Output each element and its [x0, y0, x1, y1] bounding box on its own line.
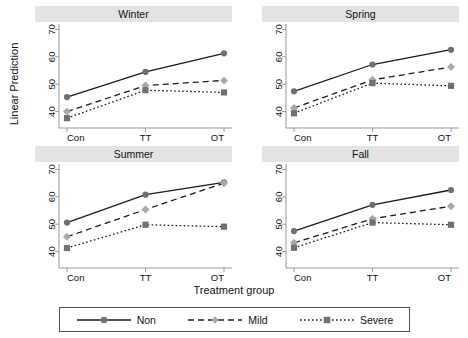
data-point-severe: [142, 87, 148, 93]
legend-swatch-non: [76, 314, 132, 326]
data-point-non: [448, 187, 454, 193]
y-tick-label: 40: [46, 246, 57, 257]
x-tick-label: OT: [211, 272, 224, 282]
x-tick-label: TT: [140, 132, 152, 142]
panel-title-winter: Winter: [35, 6, 232, 22]
data-point-severe: [291, 110, 297, 116]
x-tick-label: OT: [211, 132, 224, 142]
x-tick-label: Con: [294, 272, 311, 282]
plot-area-winter: 40506070ConTTOT: [35, 24, 232, 142]
data-point-severe: [369, 219, 375, 225]
data-point-mild: [63, 233, 71, 241]
y-tick-label: 70: [273, 24, 284, 35]
y-tick-label: 60: [46, 52, 57, 63]
data-point-mild: [220, 179, 228, 187]
data-point-severe: [64, 245, 70, 251]
data-point-non: [221, 50, 227, 56]
y-tick-label: 70: [273, 164, 284, 175]
data-point-mild: [220, 76, 228, 84]
y-tick-label: 50: [46, 79, 57, 90]
panel-title-summer: Summer: [35, 146, 232, 162]
panel-plot-svg: 40506070ConTTOT: [262, 24, 459, 142]
data-point-non: [64, 94, 70, 100]
data-point-non: [369, 61, 375, 67]
legend-label-non: Non: [137, 314, 156, 326]
y-tick-label: 60: [273, 192, 284, 203]
legend-item-non[interactable]: Non: [76, 314, 156, 326]
data-point-non: [448, 47, 454, 53]
data-point-severe: [369, 80, 375, 86]
data-point-mild: [447, 63, 455, 71]
legend-item-severe[interactable]: Severe: [299, 314, 393, 326]
panel-plot-svg: 40506070ConTTOT: [35, 24, 232, 142]
x-tick-label: OT: [438, 272, 451, 282]
x-tick-label: TT: [140, 272, 152, 282]
panel-plot-svg: 40506070ConTTOT: [35, 164, 232, 282]
legend-swatch-mild: [187, 314, 243, 326]
plot-area-fall: 40506070ConTTOT: [262, 164, 459, 282]
x-tick-label: OT: [438, 132, 451, 142]
plot-area-summer: 40506070ConTTOT: [35, 164, 232, 282]
plot-area-spring: 40506070ConTTOT: [262, 24, 459, 142]
series-line-severe: [294, 83, 451, 113]
y-tick-label: 40: [273, 106, 284, 117]
panel-title-spring: Spring: [262, 6, 459, 22]
data-point-non: [142, 69, 148, 75]
y-tick-label: 50: [273, 219, 284, 230]
series-line-mild: [294, 67, 451, 108]
chart-root: Linear Prediction Treatment group Winter…: [0, 0, 468, 338]
data-point-severe: [221, 89, 227, 95]
data-point-non: [64, 219, 70, 225]
legend-label-mild: Mild: [248, 314, 267, 326]
y-tick-label: 40: [273, 246, 284, 257]
data-point-severe: [448, 83, 454, 89]
data-point-severe: [291, 245, 297, 251]
data-point-severe: [64, 115, 70, 121]
data-point-non: [291, 228, 297, 234]
y-tick-label: 60: [46, 192, 57, 203]
x-tick-label: Con: [294, 132, 311, 142]
data-point-mild: [142, 205, 150, 213]
data-point-non: [369, 202, 375, 208]
x-tick-label: TT: [367, 272, 379, 282]
panel-title-fall: Fall: [262, 146, 459, 162]
y-tick-label: 50: [273, 79, 284, 90]
legend-swatch-severe: [299, 314, 355, 326]
x-tick-label: TT: [367, 132, 379, 142]
data-point-mild: [447, 202, 455, 210]
x-tick-label: Con: [67, 132, 84, 142]
y-tick-label: 40: [46, 106, 57, 117]
series-line-non: [67, 182, 224, 222]
legend-label-severe: Severe: [360, 314, 393, 326]
data-point-severe: [142, 222, 148, 228]
legend: Non Mild Severe: [59, 307, 410, 332]
data-point-mild: [63, 108, 71, 116]
y-tick-label: 70: [46, 164, 57, 175]
y-tick-label: 60: [273, 52, 284, 63]
y-tick-label: 50: [46, 219, 57, 230]
x-tick-label: Con: [67, 272, 84, 282]
data-point-severe: [221, 224, 227, 230]
data-point-non: [142, 192, 148, 198]
legend-item-mild[interactable]: Mild: [187, 314, 267, 326]
data-point-severe: [448, 222, 454, 228]
panel-plot-svg: 40506070ConTTOT: [262, 164, 459, 282]
data-point-non: [291, 88, 297, 94]
y-tick-label: 70: [46, 24, 57, 35]
y-axis-label: Linear Prediction: [8, 14, 20, 154]
